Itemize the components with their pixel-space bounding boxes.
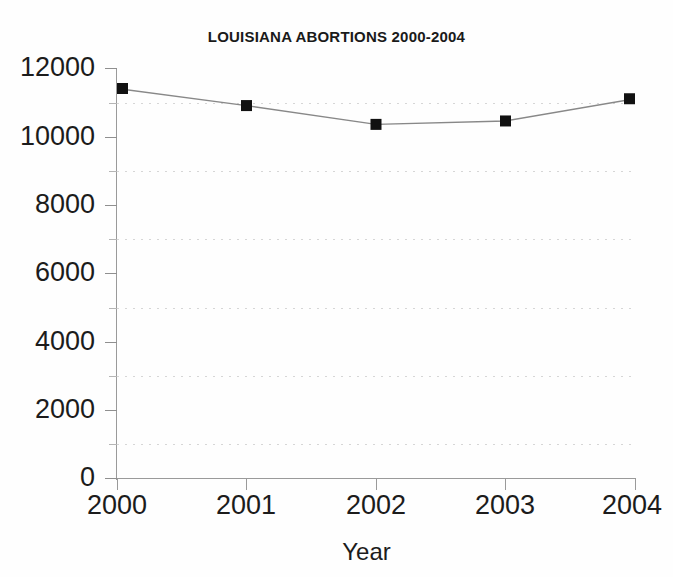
x-tick-2003 <box>505 478 506 490</box>
y-axis-label-10000: 10000 <box>5 123 105 150</box>
x-tick-2000 <box>117 478 118 490</box>
x-tick-2002 <box>376 478 377 490</box>
data-point-2004 <box>624 93 635 104</box>
x-axis-label-2001: 2001 <box>186 492 306 519</box>
y-tick-10000 <box>105 137 117 138</box>
y-tick-12000 <box>105 68 117 69</box>
plot-area <box>117 68 635 478</box>
y-axis-label-2000: 2000 <box>5 396 105 423</box>
y-tick-minor-11000 <box>109 103 117 104</box>
y-axis-label-0: 0 <box>5 464 105 491</box>
chart-title: LOUISIANA ABORTIONS 2000-2004 <box>0 28 673 45</box>
series-markers <box>117 83 635 130</box>
y-tick-minor-3000 <box>109 376 117 377</box>
chart-container: LOUISIANA ABORTIONS 2000-2004 12000 1000… <box>0 0 673 577</box>
data-point-2000 <box>117 83 128 94</box>
y-tick-minor-1000 <box>109 444 117 445</box>
x-axis-label-2000: 2000 <box>57 492 177 519</box>
y-tick-minor-9000 <box>109 171 117 172</box>
y-tick-8000 <box>105 205 117 206</box>
y-tick-2000 <box>105 410 117 411</box>
y-axis-label-6000: 6000 <box>5 259 105 286</box>
x-axis-label-2004: 2004 <box>572 492 673 519</box>
data-point-2001 <box>241 100 252 111</box>
series-line-louisiana-abortions <box>117 68 635 478</box>
data-point-2002 <box>371 119 382 130</box>
x-tick-2004 <box>635 478 636 490</box>
y-tick-minor-5000 <box>109 308 117 309</box>
y-tick-4000 <box>105 342 117 343</box>
data-point-2003 <box>500 115 511 126</box>
x-tick-2001 <box>246 478 247 490</box>
y-axis-label-8000: 8000 <box>5 191 105 218</box>
y-tick-minor-7000 <box>109 239 117 240</box>
y-tick-6000 <box>105 273 117 274</box>
y-tick-0 <box>105 478 117 479</box>
x-axis-label-2003: 2003 <box>445 492 565 519</box>
y-axis-label-4000: 4000 <box>5 328 105 355</box>
x-axis-title: Year <box>0 538 673 566</box>
y-axis-label-12000: 12000 <box>5 54 105 81</box>
x-axis-label-2002: 2002 <box>316 492 436 519</box>
